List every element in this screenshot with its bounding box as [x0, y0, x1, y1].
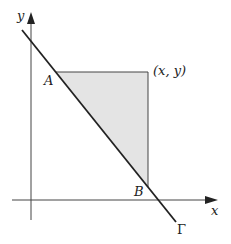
x-axis-label: x	[211, 203, 219, 218]
curve-gamma	[22, 30, 176, 222]
y-axis	[27, 12, 35, 220]
point-b-label: B	[133, 184, 144, 199]
point-a-label: A	[43, 73, 53, 88]
curve-gamma-label: Γ	[177, 222, 186, 237]
corner-point-label: (x, y)	[153, 63, 186, 78]
diagram: y x A B (x, y) Γ	[0, 0, 231, 244]
y-axis-arrow-icon	[27, 12, 35, 24]
y-axis-label: y	[16, 8, 25, 23]
x-axis	[12, 196, 218, 204]
